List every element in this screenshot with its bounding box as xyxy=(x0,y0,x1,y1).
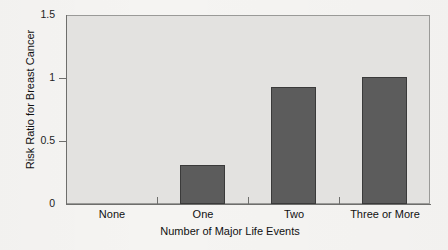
bar-one xyxy=(180,165,225,204)
y-tick-label: 0 xyxy=(3,198,55,209)
x-tick-mark-3 xyxy=(339,197,340,205)
bar-two xyxy=(271,87,316,204)
x-category-label-none: None xyxy=(99,208,125,220)
y-tick-mark xyxy=(59,141,66,142)
x-axis-title-text: Number of Major Life Events xyxy=(160,225,299,237)
x-category-label-one: One xyxy=(193,208,214,220)
y-tick-mark xyxy=(59,78,66,79)
y-axis-line xyxy=(66,15,67,205)
bar-three-or-more xyxy=(362,77,407,204)
bar-chart-figure: 00.511.5 NoneOneTwoThree or More Number … xyxy=(0,0,448,250)
x-tick-mark-2 xyxy=(248,197,249,205)
y-axis-title: Risk Ratio for Breast Cancer xyxy=(25,12,36,188)
x-axis-title: Number of Major Life Events xyxy=(0,225,448,237)
x-category-label-three-or-more: Three or More xyxy=(350,208,420,220)
x-tick-mark-1 xyxy=(157,197,158,205)
x-category-label-two: Two xyxy=(284,208,304,220)
